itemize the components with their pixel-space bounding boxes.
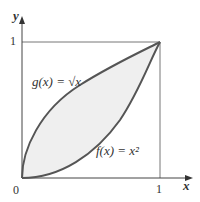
x-tick-label: 1 (156, 182, 162, 197)
curve-g-label: g(x) = √x (32, 74, 81, 90)
y-tick-label: 1 (10, 34, 16, 49)
plot-canvas (0, 0, 200, 202)
diagram-area-between-curves: y x 1 1 0 g(x) = √x f(x) = x² (0, 0, 200, 202)
origin-label: 0 (13, 183, 19, 198)
x-axis-label: x (183, 178, 190, 194)
y-axis-label: y (13, 8, 19, 24)
y-axis-arrow-icon (19, 16, 25, 24)
shaded-region (22, 42, 160, 178)
curve-f-label: f(x) = x² (96, 143, 139, 159)
